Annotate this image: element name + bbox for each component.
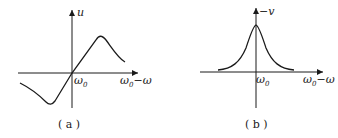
figure: u ω0 ω0−ω ( a ) −v ω0 ω0−ω ( b )	[0, 0, 338, 138]
panel-b: −v ω0 ω0−ω ( b )	[200, 5, 335, 131]
origin-label-a: ω0	[74, 74, 88, 89]
y-axis-label-b: −v	[259, 5, 275, 18]
caption-a: ( a )	[58, 118, 80, 131]
x-axis-label-a: ω0−ω	[120, 74, 152, 89]
origin-label-b: ω0	[256, 73, 270, 88]
y-axis-label-a: u	[77, 6, 84, 19]
caption-b: ( b )	[245, 118, 268, 131]
x-axis-label-b: ω0−ω	[303, 73, 335, 88]
panel-a: u ω0 ω0−ω ( a )	[18, 6, 152, 131]
